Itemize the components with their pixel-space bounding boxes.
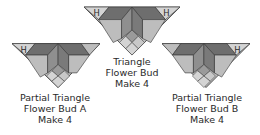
label-line: Partial Triangle xyxy=(152,92,260,103)
h-mark: H xyxy=(163,8,169,18)
label-line: Make 4 xyxy=(0,114,110,125)
h-mark: H xyxy=(20,45,26,55)
label-line: Flower Bud B xyxy=(152,103,260,114)
label-triangle-flower-bud: Triangle Flower Bud Make 4 xyxy=(77,56,187,89)
label-line: Make 4 xyxy=(152,114,260,125)
label-line: Make 4 xyxy=(77,78,187,89)
h-mark: H xyxy=(234,45,240,55)
label-line: Triangle xyxy=(77,56,187,67)
label-partial-triangle-flower-bud-a: Partial Triangle Flower Bud A Make 4 xyxy=(0,92,110,125)
label-partial-triangle-flower-bud-b: Partial Triangle Flower Bud B Make 4 xyxy=(152,92,260,125)
label-line: Flower Bud xyxy=(77,67,187,78)
label-line: Flower Bud A xyxy=(0,103,110,114)
label-line: Partial Triangle xyxy=(0,92,110,103)
h-mark: H xyxy=(93,8,99,18)
